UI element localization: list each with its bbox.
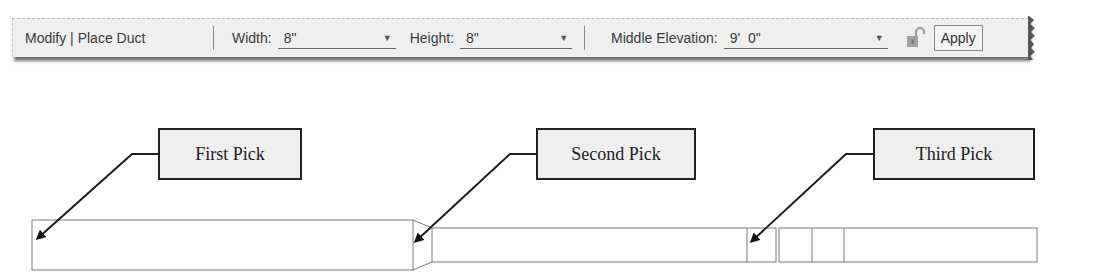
callout-label: Third Pick — [916, 144, 993, 165]
callout-third-pick: Third Pick — [873, 128, 1035, 180]
callout-label: Second Pick — [571, 144, 661, 165]
leader-first-pick — [38, 154, 158, 238]
duct-segment-1 — [32, 220, 432, 270]
duct-segment-3 — [779, 228, 1037, 262]
duct-segment-2 — [432, 228, 776, 262]
callout-first-pick: First Pick — [158, 128, 302, 180]
callout-label: First Pick — [195, 144, 265, 165]
callout-second-pick: Second Pick — [536, 128, 696, 180]
